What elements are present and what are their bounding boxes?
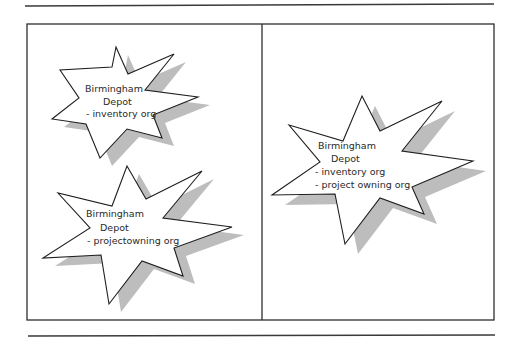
diagram-canvas: Birmingham Depot - inventory org Birming…: [0, 0, 519, 338]
star-1: Birmingham Depot - inventory org: [52, 47, 210, 166]
star-2: Birmingham Depot - projectowning org: [43, 166, 244, 312]
star-3-line-2: Depot: [331, 153, 360, 164]
star-3: Birmingham Depot - inventory org - proje…: [272, 96, 486, 254]
star-2-line-2: Depot: [100, 222, 129, 233]
panel-left: Birmingham Depot - inventory org Birming…: [43, 47, 244, 312]
star-1-line-1: Birmingham: [85, 83, 143, 94]
bottom-rule: [28, 335, 495, 336]
star-1-line-2: Depot: [103, 96, 132, 107]
star-3-line-1: Birmingham: [318, 140, 376, 151]
panel-right: Birmingham Depot - inventory org - proje…: [272, 96, 486, 254]
star-2-line-1: Birmingham: [86, 208, 144, 219]
top-rule: [25, 4, 494, 6]
star-3-line-3: - inventory org: [315, 166, 385, 177]
star-2-line-3: - projectowning org: [87, 235, 179, 246]
star-1-line-3: - inventory org: [86, 108, 156, 119]
star-3-line-4: - project owning org: [315, 179, 410, 190]
